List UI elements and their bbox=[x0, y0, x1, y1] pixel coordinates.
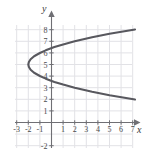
x-tick-label: 7 bbox=[131, 125, 135, 134]
y-tick-label: 1 bbox=[44, 107, 48, 116]
y-axis-label: y bbox=[41, 3, 47, 14]
x-tick-label: -2 bbox=[25, 125, 32, 134]
y-tick-label: 3 bbox=[44, 84, 48, 93]
x-tick-label: 4 bbox=[96, 125, 100, 134]
y-tick-label: 5 bbox=[44, 61, 48, 70]
x-tick-label: 1 bbox=[61, 125, 65, 134]
y-tick-label: -2 bbox=[41, 142, 48, 151]
x-tick-label: 6 bbox=[119, 125, 123, 134]
x-tick-label: 3 bbox=[84, 125, 88, 134]
x-tick-label: 5 bbox=[108, 125, 112, 134]
y-tick-label: 2 bbox=[44, 95, 48, 104]
x-tick-label: -3 bbox=[13, 125, 20, 134]
x-axis-label: x bbox=[136, 124, 142, 135]
y-tick-label: 7 bbox=[44, 37, 48, 46]
x-tick-label: -1 bbox=[37, 125, 44, 134]
coordinate-plane: -3-2-1123456787654321-2 y x bbox=[0, 0, 148, 157]
graph-figure: -3-2-1123456787654321-2 y x bbox=[0, 0, 148, 157]
y-tick-label: 8 bbox=[44, 26, 48, 35]
x-tick-label: 2 bbox=[73, 125, 77, 134]
